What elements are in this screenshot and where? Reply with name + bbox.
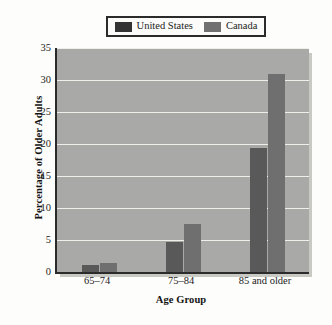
bar-chart-figure: United States Canada Percentage of Older…	[0, 0, 332, 325]
bar-ca	[100, 263, 117, 272]
y-axis-tick-label: 0	[24, 267, 51, 278]
x-axis-tick-label: 65–74	[84, 276, 110, 287]
bar-ca	[268, 74, 285, 272]
legend-swatch-united-states	[115, 22, 132, 32]
bar-us	[166, 242, 183, 272]
y-axis-tick-label: 25	[24, 107, 51, 118]
x-axis-ticks: 65–7475–8485 and older	[55, 276, 307, 292]
legend-label-united-states: United States	[137, 21, 193, 32]
bar-ca	[184, 224, 201, 272]
bar-us	[250, 148, 267, 272]
legend-swatch-canada	[204, 22, 221, 32]
x-axis-tick-label: 85 and older	[239, 276, 292, 287]
y-axis-tick-label: 35	[24, 43, 51, 54]
x-axis-title: Age Group	[55, 294, 307, 305]
y-axis-tick-label: 15	[24, 171, 51, 182]
legend-entry-canada: Canada	[204, 21, 258, 32]
y-axis-tick-label: 20	[24, 139, 51, 150]
y-axis-tick-label: 10	[24, 203, 51, 214]
y-axis-tick-label: 30	[24, 75, 51, 86]
bar-group	[141, 48, 225, 272]
legend-entry-united-states: United States	[115, 21, 193, 32]
plot-area	[55, 48, 309, 274]
chart-legend: United States Canada	[106, 16, 266, 37]
bar-us	[82, 265, 99, 272]
y-axis-tick-label: 5	[24, 235, 51, 246]
bar-group	[57, 48, 141, 272]
x-axis-tick-label: 75–84	[168, 276, 194, 287]
y-axis-ticks: 05101520253035	[24, 48, 51, 272]
bar-group	[225, 48, 309, 272]
bar-series-layer	[57, 48, 309, 272]
legend-label-canada: Canada	[226, 21, 258, 32]
